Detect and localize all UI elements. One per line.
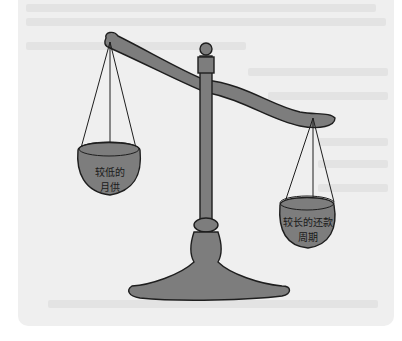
scale-base [129,232,290,300]
right-pan-label-line1: 较长的还款 [280,215,336,230]
post-collar [194,218,218,232]
right-pan-label: 较长的还款 周期 [280,215,336,245]
balance-scale-illustration [0,0,402,341]
post-finial [200,43,212,55]
left-pan-label-line1: 较低的 [88,165,132,180]
right-pan-label-line2: 周期 [280,230,336,245]
scale-beam [105,32,335,127]
post-cap [198,57,214,73]
left-pan-strings [81,42,136,148]
right-pan-strings [285,118,334,202]
left-pan-label-line2: 月供 [88,180,132,195]
left-pan-label: 较低的 月供 [88,165,132,195]
